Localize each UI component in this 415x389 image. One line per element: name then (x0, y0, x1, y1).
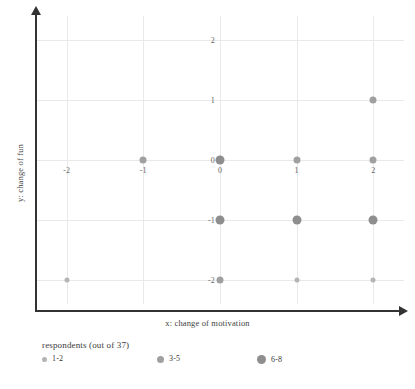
x-axis-line (36, 310, 401, 312)
legend-item[interactable]: 1-2 (42, 355, 63, 363)
x-axis-title: x: change of motivation (0, 318, 415, 328)
y-tick-label: -1 (208, 216, 215, 225)
legend-item-label: 1-2 (52, 355, 63, 363)
gridline-vertical (67, 16, 68, 304)
legend-item-label: 6-8 (271, 356, 282, 364)
legend-title: respondents (out of 37) (42, 340, 342, 350)
plot-area (36, 16, 404, 304)
data-point (292, 216, 301, 225)
legend-item[interactable]: 3-5 (157, 355, 180, 363)
data-point (370, 157, 377, 164)
x-tick-label: -1 (140, 166, 147, 175)
x-tick-label: 2 (371, 166, 375, 175)
data-point (369, 216, 378, 225)
x-tick-label: 0 (218, 166, 222, 175)
legend-marker-icon (157, 356, 164, 363)
data-point (293, 157, 300, 164)
y-tick-label: 2 (211, 36, 215, 45)
y-tick-label: 1 (211, 96, 215, 105)
legend-item-label: 3-5 (169, 355, 180, 363)
scatter-chart: -2-1012 210-1-2 x: change of motivation … (0, 0, 415, 389)
y-axis-line (35, 14, 37, 312)
x-axis-arrow-icon (399, 306, 408, 316)
legend-items: 1-23-56-8 (42, 355, 342, 369)
legend-marker-icon (42, 357, 47, 362)
y-tick-label: 0 (211, 156, 215, 165)
legend-marker-icon (257, 355, 266, 364)
y-axis-arrow-icon (31, 6, 41, 15)
data-point (217, 277, 224, 284)
data-point (294, 278, 299, 283)
data-point (64, 278, 69, 283)
data-point (216, 156, 225, 165)
data-point (216, 216, 225, 225)
data-point (140, 157, 147, 164)
legend: respondents (out of 37) 1-23-56-8 (42, 340, 342, 369)
x-tick-label: 1 (295, 166, 299, 175)
y-axis-title: y: change of fun (15, 93, 25, 253)
data-point (370, 97, 377, 104)
data-point (371, 278, 376, 283)
y-tick-label: -2 (208, 276, 215, 285)
legend-item[interactable]: 6-8 (257, 355, 282, 364)
x-tick-label: -2 (63, 166, 70, 175)
